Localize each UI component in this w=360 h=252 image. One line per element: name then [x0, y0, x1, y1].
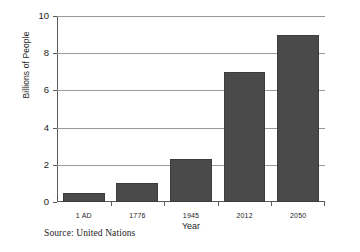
gridline [57, 16, 325, 17]
y-axis-tick [53, 165, 57, 166]
x-axis-tick [324, 202, 325, 206]
y-axis-tick-label: 4 [27, 122, 49, 133]
y-axis-tick [53, 128, 57, 129]
x-axis-tick-label: 1945 [161, 212, 221, 219]
source-note: Source: United Nations [44, 228, 135, 238]
y-axis-tick-label: 8 [27, 47, 49, 58]
bar [224, 72, 266, 202]
x-axis-tick-label: 1 AD [54, 212, 114, 219]
x-axis-tick [271, 202, 272, 206]
x-axis-tick-label: 2050 [268, 212, 328, 219]
x-axis-tick [111, 202, 112, 206]
bar [63, 193, 105, 202]
bar [170, 159, 212, 202]
population-bar-chart: Billions of People 0246810 1 AD177619452… [0, 0, 360, 252]
y-axis-tick-label: 2 [27, 159, 49, 170]
bar [116, 183, 158, 202]
y-axis-tick-label: 0 [27, 196, 49, 207]
x-axis-tick-label: 1776 [107, 212, 167, 219]
y-axis-tick [53, 202, 57, 203]
x-axis-tick [164, 202, 165, 206]
bar [277, 35, 319, 202]
y-axis-tick [53, 53, 57, 54]
x-axis-tick [218, 202, 219, 206]
plot-area: 0246810 1 AD1776194520122050 [57, 16, 325, 202]
x-axis-tick-label: 2012 [215, 212, 275, 219]
y-axis-tick [53, 90, 57, 91]
y-axis-tick [53, 16, 57, 17]
y-axis-tick-label: 6 [27, 84, 49, 95]
y-axis-tick-label: 10 [27, 10, 49, 21]
